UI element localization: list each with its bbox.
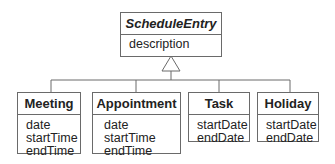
attribute: endTime [26, 145, 74, 158]
class-name: Task [189, 93, 249, 115]
class-name: Meeting [18, 93, 80, 115]
attribute: endDate [197, 132, 243, 145]
class-task: Task startDate endDate [188, 92, 250, 142]
inheritance-arrow-icon [162, 56, 180, 71]
class-schedule-entry: ScheduleEntry description [120, 12, 222, 57]
class-meeting: Meeting date startTime endTime [17, 92, 81, 154]
class-name: Appointment [93, 93, 180, 115]
attribute: endDate [266, 132, 312, 145]
class-name: Holiday [258, 93, 318, 115]
attribute: endTime [104, 145, 174, 158]
class-holiday: Holiday startDate endDate [257, 92, 319, 142]
class-name: ScheduleEntry [121, 13, 221, 35]
class-appointment: Appointment date startTime endTime [92, 92, 181, 154]
attribute: description [129, 38, 215, 51]
